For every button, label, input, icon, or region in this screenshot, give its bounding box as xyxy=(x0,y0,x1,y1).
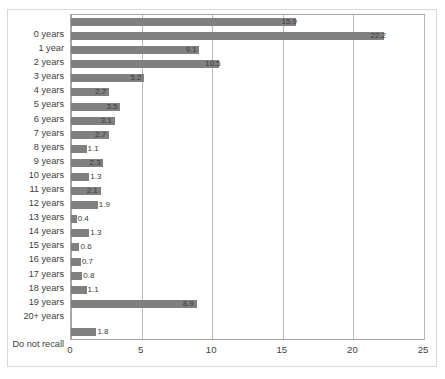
category-axis-labels: 0 years1 year2 years3 years4 years5 year… xyxy=(0,14,68,340)
bar-row: 1.9 xyxy=(71,198,110,213)
bar-row: 2.1 xyxy=(71,184,98,199)
category-label: 2 years xyxy=(34,57,64,68)
bar-value-label: 3.1 xyxy=(101,117,112,125)
x-axis-tick-labels: 0510152025 xyxy=(70,344,425,360)
bar-value-label: 15.9 xyxy=(282,18,298,26)
bar-value-label: 1.1 xyxy=(88,145,99,153)
bar xyxy=(71,145,87,153)
bar-value-label: 5.2 xyxy=(130,74,141,82)
bar-value-label: 0.6 xyxy=(80,243,91,251)
bar xyxy=(71,46,199,54)
bar xyxy=(71,286,87,294)
bar-value-label: 1.8 xyxy=(97,328,108,336)
bar-value-label: 0.7 xyxy=(82,258,93,266)
bar-value-label: 2.3 xyxy=(89,159,100,167)
bar-row: 10.5 xyxy=(71,57,221,72)
bar-value-label: 1.9 xyxy=(99,201,110,209)
bar-row: 2.7 xyxy=(71,127,106,142)
category-label: 16 years xyxy=(29,254,64,265)
x-tick-label: 25 xyxy=(418,344,429,356)
category-label: 10 years xyxy=(29,170,64,181)
bar-row: 1.8 xyxy=(71,325,109,340)
bars-layer: 15.922.29.110.55.22.73.53.12.71.12.31.32… xyxy=(71,15,424,339)
bar-chart-figure: 0 years1 year2 years3 years4 years5 year… xyxy=(0,0,445,379)
bar-row: 3.5 xyxy=(71,99,118,114)
bar-value-label: 9.1 xyxy=(185,46,196,54)
category-label: Do not recall xyxy=(12,339,64,350)
bar xyxy=(71,229,89,237)
bar-value-label: 1.3 xyxy=(90,229,101,237)
x-tick-label: 15 xyxy=(276,344,287,356)
bar-value-label: 10.5 xyxy=(205,60,221,68)
bar-row: 1.3 xyxy=(71,170,101,185)
category-label: 5 years xyxy=(34,99,64,110)
bar xyxy=(71,32,384,40)
bar-value-label: 1.1 xyxy=(88,286,99,294)
category-label: 0 years xyxy=(34,29,64,40)
category-label: 14 years xyxy=(29,226,64,237)
category-label: 3 years xyxy=(34,71,64,82)
bar xyxy=(71,243,79,251)
bar-value-label: 2.7 xyxy=(95,88,106,96)
category-label: 4 years xyxy=(34,85,64,96)
bar-value-label: 0.4 xyxy=(78,215,89,223)
category-label: 12 years xyxy=(29,198,64,209)
bar xyxy=(71,18,296,26)
bar xyxy=(71,258,81,266)
category-label: 11 years xyxy=(29,184,64,195)
bar xyxy=(71,300,197,308)
bar-value-label: 2.7 xyxy=(95,131,106,139)
category-label: 17 years xyxy=(29,269,64,280)
bar-value-label: 3.5 xyxy=(106,103,117,111)
bar-value-label: 22.2 xyxy=(370,32,386,40)
category-label: 15 years xyxy=(29,240,64,251)
bar xyxy=(71,60,219,68)
bar-value-label: 8.9 xyxy=(183,300,194,308)
x-tick-label: 10 xyxy=(206,344,217,356)
bar-row: 0.6 xyxy=(71,240,92,255)
bar-row: 15.9 xyxy=(71,15,297,30)
bar-row: 8.9 xyxy=(71,296,194,311)
category-label: 20+ years xyxy=(23,311,64,322)
category-label: 8 years xyxy=(34,142,64,153)
bar-row: 9.1 xyxy=(71,43,197,58)
bar-value-label: 0.8 xyxy=(83,272,94,280)
bar-row: 1.1 xyxy=(71,282,99,297)
category-label: 7 years xyxy=(34,128,64,139)
bar-value-label: 2.1 xyxy=(87,187,98,195)
category-label: 9 years xyxy=(34,156,64,167)
bar-row: 0.7 xyxy=(71,254,93,269)
bar-row: 22.2 xyxy=(71,29,386,44)
bar xyxy=(71,215,77,223)
bar-value-label: 1.3 xyxy=(90,173,101,181)
gridline-25 xyxy=(424,15,425,339)
x-tick-label: 5 xyxy=(138,344,143,356)
bar xyxy=(71,201,98,209)
bar-row: 3.1 xyxy=(71,113,112,128)
bar-row: 5.2 xyxy=(71,71,142,86)
category-label: 6 years xyxy=(34,114,64,125)
bar-row: 1.3 xyxy=(71,226,101,241)
category-label: 18 years xyxy=(29,283,64,294)
bar-row: 0.8 xyxy=(71,268,94,283)
bar-row: 0.4 xyxy=(71,212,89,227)
bar-row: 2.7 xyxy=(71,85,106,100)
x-tick-label: 20 xyxy=(347,344,358,356)
category-label: 13 years xyxy=(29,212,64,223)
plot-area: 15.922.29.110.55.22.73.53.12.71.12.31.32… xyxy=(70,14,425,340)
category-label: 19 years xyxy=(29,297,64,308)
bar-row: 1.1 xyxy=(71,141,99,156)
bar xyxy=(71,272,82,280)
bar-row: 2.3 xyxy=(71,156,101,171)
category-label: 1 year xyxy=(38,43,64,54)
x-tick-label: 0 xyxy=(67,344,72,356)
bar xyxy=(71,328,96,336)
bar xyxy=(71,173,89,181)
